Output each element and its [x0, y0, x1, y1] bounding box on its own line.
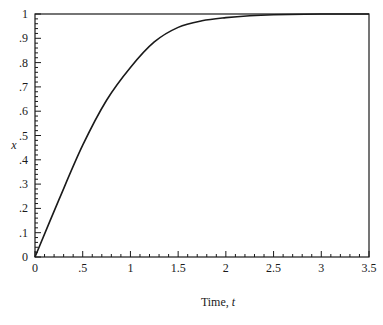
plot-border	[35, 14, 369, 257]
y-tick-label: .2	[19, 201, 28, 215]
y-tick-label: .1	[19, 226, 28, 240]
x-axis-tick-labels: 0.511.522.533.5	[32, 261, 377, 275]
y-tick-label: .9	[19, 31, 28, 45]
x-tick-label: 3.5	[362, 261, 377, 275]
x-tick-label: 1	[127, 261, 133, 275]
x-axis-ticks	[35, 251, 369, 257]
y-tick-label: .7	[19, 80, 28, 94]
y-tick-label: 1	[22, 7, 28, 21]
x-tick-label: 1.5	[171, 261, 186, 275]
y-tick-label: 0	[22, 250, 28, 264]
x-tick-label: 2.5	[266, 261, 281, 275]
y-axis-tick-labels: 0.1.2.3.4.5.6.7.8.91	[19, 7, 28, 264]
y-axis-ticks	[35, 14, 41, 257]
y-tick-label: .5	[19, 129, 28, 143]
line-chart: 0.511.522.533.5 0.1.2.3.4.5.6.7.8.91 Tim…	[0, 0, 383, 325]
y-tick-label: .8	[19, 56, 28, 70]
x-tick-label: 0	[32, 261, 38, 275]
y-tick-label: .6	[19, 104, 28, 118]
x-tick-label: .5	[78, 261, 87, 275]
x-tick-label: 2	[223, 261, 229, 275]
x-axis-label: Time, t	[201, 295, 236, 309]
data-line-x-of-t	[35, 14, 369, 257]
y-tick-label: .4	[19, 153, 28, 167]
y-axis-label: x	[10, 138, 17, 152]
plot-frame	[35, 14, 369, 257]
x-tick-label: 3	[318, 261, 324, 275]
y-tick-label: .3	[19, 177, 28, 191]
